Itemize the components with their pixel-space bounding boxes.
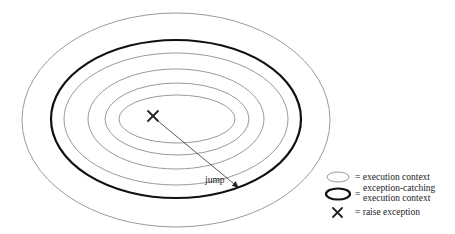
legend-catching-line2: execution context	[363, 193, 431, 203]
legend-x-icon	[333, 208, 342, 217]
context-ellipse-outer	[22, 13, 330, 227]
jump-label: jump	[204, 175, 225, 185]
context-ellipse-3	[64, 53, 288, 185]
raise-exception-x-icon	[148, 111, 158, 121]
legend-execution-context-label: = execution context	[355, 172, 430, 182]
context-ellipse-inner	[119, 95, 235, 143]
legend-thin-ellipse-icon	[327, 172, 349, 182]
diagram-canvas: jump = execution context = exception-cat…	[0, 0, 455, 234]
context-ellipse-5	[105, 83, 249, 155]
legend-thick-ellipse-icon	[326, 189, 350, 200]
legend-catching-line1: exception-catching	[363, 183, 436, 193]
legend: = execution context = exception-catching…	[326, 172, 436, 217]
context-ellipse-4	[88, 69, 264, 169]
legend-equals-sign: =	[355, 189, 360, 199]
legend-raise-exception-label: = raise exception	[355, 207, 420, 217]
